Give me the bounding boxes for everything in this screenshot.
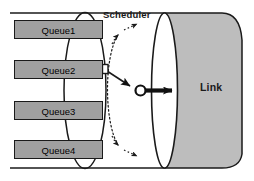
queue-label: Queue3 xyxy=(15,105,102,116)
queue-box-2[interactable]: Queue2 xyxy=(14,60,103,79)
link-label: Link xyxy=(200,82,222,93)
dequeue-arrow xyxy=(107,71,130,86)
queue-box-1[interactable]: Queue1 xyxy=(14,20,103,39)
queue-box-4[interactable]: Queue4 xyxy=(14,140,103,159)
queue-label: Queue1 xyxy=(15,24,102,35)
diagram-canvas: Queue1 Queue2 Queue3 Queue4 Scheduler Li… xyxy=(0,0,254,181)
queue-label: Queue2 xyxy=(15,64,102,75)
server-node-icon xyxy=(136,86,146,96)
queue-label: Queue4 xyxy=(15,144,102,155)
packet-icon xyxy=(103,65,109,74)
queue-box-3[interactable]: Queue3 xyxy=(14,101,103,120)
scheduler-label: Scheduler xyxy=(103,10,151,20)
service-arc xyxy=(108,24,138,156)
